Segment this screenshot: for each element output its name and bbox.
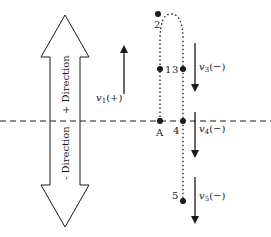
point-a <box>157 118 163 124</box>
velocity-4-label: v4(−) <box>199 123 225 136</box>
velocity-5-label: v5(−) <box>199 190 225 203</box>
velocity-3-label: v3(−) <box>199 61 225 74</box>
point-5-label: 5 <box>172 190 178 201</box>
negative-direction-label: - Direction <box>60 126 71 180</box>
point-5 <box>180 198 186 204</box>
point-2 <box>155 11 161 17</box>
velocity-1-label: v1(+) <box>96 92 122 105</box>
projectile-motion-diagram: + Direction - Direction A 1 2 3 4 5 v1(+… <box>0 0 271 237</box>
point-4 <box>180 118 186 124</box>
positive-direction-label: + Direction <box>60 55 71 114</box>
point-3 <box>180 66 186 72</box>
point-1 <box>157 66 163 72</box>
point-4-label: 4 <box>173 125 179 136</box>
point-1-label: 1 <box>165 64 171 75</box>
point-3-label: 3 <box>172 64 178 75</box>
point-2-label: 2 <box>154 19 160 30</box>
trajectory-path <box>160 14 183 201</box>
point-a-label: A <box>155 127 164 138</box>
